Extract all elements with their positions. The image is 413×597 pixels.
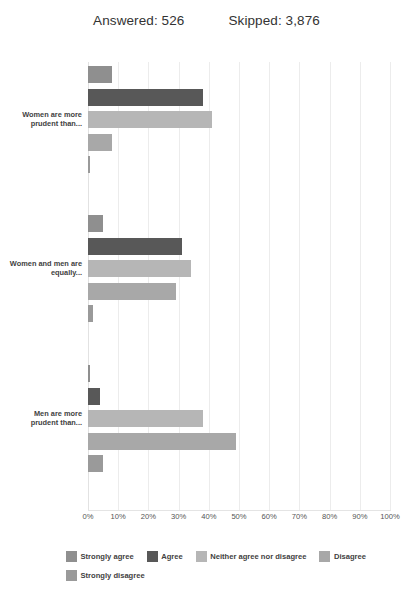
bar (88, 305, 93, 322)
legend-swatch-icon (196, 551, 207, 562)
bar (88, 283, 176, 300)
bar (88, 388, 100, 405)
category-label: Men are more prudent than... (6, 409, 82, 428)
bar (88, 134, 112, 151)
survey-chart-page: Answered: 526 Skipped: 3,876 Women are m… (0, 0, 413, 597)
bar (88, 455, 103, 472)
x-tick-label: 10% (111, 512, 126, 521)
legend-label: Strongly disagree (81, 571, 145, 580)
x-tick-label: 50% (231, 512, 246, 521)
gridline-60 (269, 62, 270, 510)
category-label: Women and men are equally... (6, 259, 82, 278)
legend-swatch-icon (66, 570, 77, 581)
legend-label: Neither agree nor disagree (210, 552, 306, 561)
bar (88, 238, 182, 255)
x-axis-line (88, 510, 391, 511)
bar (88, 215, 103, 232)
legend-label: Agree (161, 552, 183, 561)
bar (88, 156, 90, 173)
legend-label: Disagree (334, 552, 366, 561)
answered-stat: Answered: 526 (93, 13, 184, 28)
gridline-100 (390, 62, 391, 510)
legend-item[interactable]: Neither agree nor disagree (196, 551, 307, 562)
x-tick-label: 100% (380, 512, 399, 521)
x-tick-label: 60% (262, 512, 277, 521)
legend-label: Strongly agree (81, 552, 134, 561)
plot-area (88, 62, 390, 510)
x-tick-label: 40% (201, 512, 216, 521)
legend-swatch-icon (147, 551, 158, 562)
bar (88, 111, 212, 128)
legend-item[interactable]: Disagree (319, 551, 366, 562)
legend-item[interactable]: Agree (147, 551, 183, 562)
bar (88, 365, 90, 382)
skipped-stat: Skipped: 3,876 (228, 13, 319, 28)
gridline-80 (330, 62, 331, 510)
category-label: Women are more prudent than... (6, 110, 82, 129)
x-tick-label: 70% (292, 512, 307, 521)
bar (88, 66, 112, 83)
x-axis-ticks: 0%10%20%30%40%50%60%70%80%90%100% (0, 512, 413, 526)
x-tick-label: 30% (171, 512, 186, 521)
x-tick-label: 0% (83, 512, 94, 521)
legend-item[interactable]: Strongly disagree (66, 570, 145, 581)
chart-header: Answered: 526 Skipped: 3,876 (0, 13, 413, 28)
gridline-90 (360, 62, 361, 510)
bar (88, 433, 236, 450)
legend-item[interactable]: Strongly agree (66, 551, 134, 562)
bar (88, 89, 203, 106)
gridline-50 (239, 62, 240, 510)
bar (88, 260, 191, 277)
legend-swatch-icon (319, 551, 330, 562)
bar (88, 410, 203, 427)
category-axis: Women are more prudent than...Women and … (0, 62, 82, 510)
legend-swatch-icon (66, 551, 77, 562)
gridline-70 (299, 62, 300, 510)
x-tick-label: 20% (141, 512, 156, 521)
x-tick-label: 90% (352, 512, 367, 521)
x-tick-label: 80% (322, 512, 337, 521)
chart-legend: Strongly agreeAgreeNeither agree nor dis… (66, 551, 406, 581)
